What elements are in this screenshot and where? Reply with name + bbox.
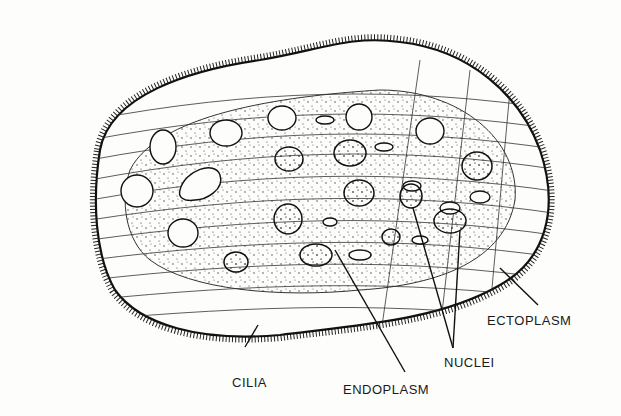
cell-diagram <box>0 0 621 416</box>
label-endoplasm: ENDOPLASM <box>343 382 429 397</box>
label-ectoplasm: ECTOPLASM <box>487 313 571 328</box>
label-cilia: CILIA <box>232 375 267 390</box>
label-nuclei: NUCLEI <box>444 355 495 370</box>
